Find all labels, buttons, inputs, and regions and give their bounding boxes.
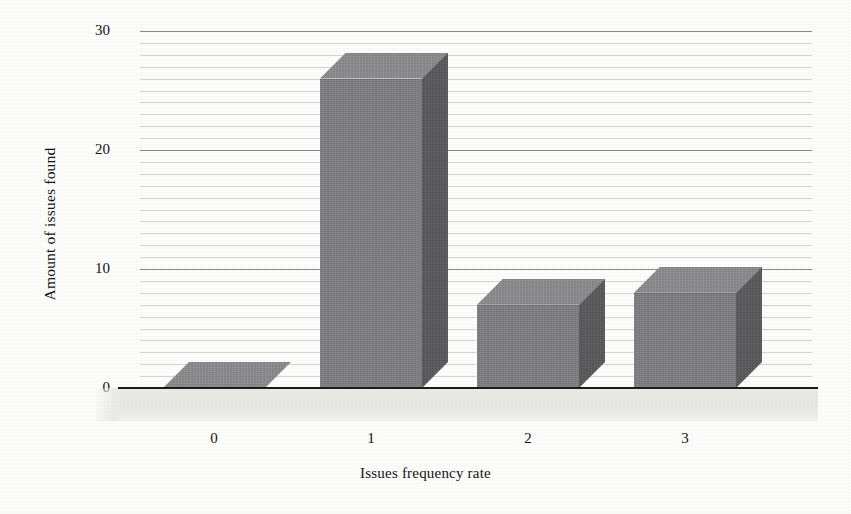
x-tick-label-3: 3 — [645, 430, 725, 447]
bar-front-face — [320, 79, 422, 389]
bar-1 — [320, 53, 448, 388]
x-tick-label-0: 0 — [174, 430, 254, 447]
bar-0 — [163, 362, 291, 388]
bar-top-face — [163, 362, 291, 388]
bar-front-face — [477, 305, 579, 389]
x-tick-label-2: 2 — [488, 430, 568, 447]
bar-chart-figure: 30 20 10 0 Amount of issues found Issues… — [0, 0, 851, 514]
bar-3 — [634, 267, 762, 388]
zero-axis-line — [118, 387, 818, 389]
bar-side-face — [422, 53, 448, 388]
bar-2 — [477, 279, 605, 388]
bar-front-face — [634, 293, 736, 389]
x-tick-label-1: 1 — [331, 430, 411, 447]
